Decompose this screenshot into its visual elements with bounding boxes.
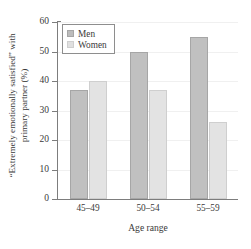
bar-women-55–59 bbox=[209, 122, 227, 199]
legend-label-women: Women bbox=[78, 40, 107, 50]
y-axis-title-line1: “Extremely emotionally satisfied” with bbox=[7, 33, 17, 177]
bar-men-45–49 bbox=[70, 90, 88, 199]
x-axis-line bbox=[57, 199, 238, 200]
y-tick-0 bbox=[52, 199, 57, 200]
gridline-40 bbox=[58, 81, 238, 82]
legend-item-women: Women bbox=[67, 39, 107, 50]
y-tick-label-10: 10 bbox=[40, 165, 50, 175]
y-tick-label-0: 0 bbox=[44, 194, 49, 204]
y-axis-title-line2: primary partner (%) bbox=[18, 33, 30, 177]
chart-legend: Men Women bbox=[62, 24, 115, 54]
bar-women-45–49 bbox=[89, 81, 107, 199]
y-axis-title: “Extremely emotionally satisfied” with p… bbox=[0, 0, 36, 210]
y-tick-label-50: 50 bbox=[40, 47, 50, 57]
y-tick-40 bbox=[52, 81, 57, 82]
bar-women-50–54 bbox=[149, 90, 167, 199]
y-tick-20 bbox=[52, 140, 57, 141]
legend-swatch-women-icon bbox=[67, 41, 74, 48]
x-tick-label-50–54: 50–54 bbox=[118, 203, 178, 213]
y-tick-label-40: 40 bbox=[40, 76, 50, 86]
legend-label-men: Men bbox=[78, 29, 95, 39]
x-axis-title: Age range bbox=[58, 222, 238, 233]
x-tick-label-55–59: 55–59 bbox=[178, 203, 238, 213]
x-tick-label-45–49: 45–49 bbox=[58, 203, 118, 213]
gridline-60 bbox=[58, 22, 238, 23]
bar-men-50–54 bbox=[130, 52, 148, 200]
legend-item-men: Men bbox=[67, 28, 107, 39]
bar-men-55–59 bbox=[190, 37, 208, 199]
y-tick-10 bbox=[52, 170, 57, 171]
y-tick-label-60: 60 bbox=[40, 17, 50, 27]
y-tick-30 bbox=[52, 111, 57, 112]
y-tick-50 bbox=[52, 52, 57, 53]
y-tick-label-20: 20 bbox=[40, 135, 50, 145]
bar-chart-figure: “Extremely emotionally satisfied” with p… bbox=[0, 0, 251, 249]
y-tick-60 bbox=[52, 22, 57, 23]
y-tick-label-30: 30 bbox=[40, 106, 50, 116]
legend-swatch-men-icon bbox=[67, 30, 74, 37]
